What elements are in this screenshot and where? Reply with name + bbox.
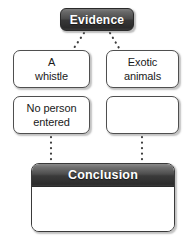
evidence-box-whistle[interactable]: A whistle <box>13 50 90 88</box>
conclusion-header: Conclusion <box>32 164 174 187</box>
evidence-box-no-person-entered-text: No person entered <box>24 101 80 129</box>
evidence-box-no-person-entered-line1: No person <box>27 102 77 114</box>
evidence-box-no-person-entered-line2: entered <box>33 116 70 128</box>
conclusion-box[interactable]: Conclusion <box>31 163 175 232</box>
conclusion-header-label: Conclusion <box>68 169 138 182</box>
conclusion-body[interactable] <box>32 187 174 232</box>
evidence-box-exotic-animals-text: Exotic animals <box>121 55 164 83</box>
evidence-box-exotic-animals-line1: Exotic <box>128 56 157 68</box>
evidence-box-exotic-animals-line2: animals <box>124 70 161 82</box>
evidence-header-label: Evidence <box>70 14 124 26</box>
connector-evidence-to-exotic <box>110 33 119 48</box>
evidence-box-whistle-line2: whistle <box>35 70 68 82</box>
evidence-box-whistle-line1: A <box>48 56 55 68</box>
connector-evidence-to-whistle <box>74 33 84 48</box>
evidence-box-no-person-entered[interactable]: No person entered <box>13 96 90 134</box>
evidence-header-box: Evidence <box>60 8 134 31</box>
evidence-box-blank[interactable] <box>106 96 179 134</box>
evidence-box-whistle-text: A whistle <box>32 55 71 83</box>
evidence-conclusion-diagram: Evidence A whistle Exotic animals No per… <box>0 0 192 244</box>
evidence-box-exotic-animals[interactable]: Exotic animals <box>106 50 179 88</box>
